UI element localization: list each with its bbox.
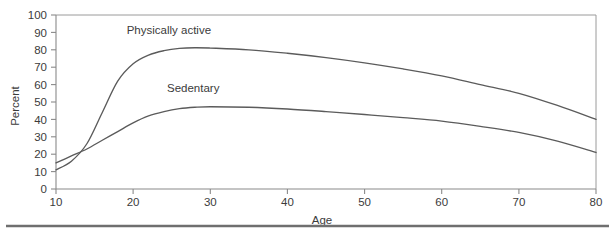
y-tick-label-50: 50 <box>34 96 47 108</box>
y-axis-title: Percent <box>9 85 21 125</box>
x-tick-label-20: 20 <box>127 196 140 208</box>
y-axis-tick-labels: 0 10 20 30 40 50 60 70 80 90 100 <box>28 9 47 195</box>
y-tick-label-100: 100 <box>28 9 47 21</box>
x-tick-label-60: 60 <box>435 196 448 208</box>
y-tick-label-0: 0 <box>41 183 47 195</box>
x-tick-label-40: 40 <box>281 196 294 208</box>
y-tick-label-10: 10 <box>34 166 47 178</box>
figure-page: 0 10 20 30 40 50 60 70 80 90 100 10 20 <box>0 0 615 235</box>
x-axis-title: Age <box>312 214 332 226</box>
x-tick-label-30: 30 <box>204 196 217 208</box>
series-label-physically-active: Physically active <box>127 24 211 36</box>
line-chart: 0 10 20 30 40 50 60 70 80 90 100 10 20 <box>0 0 615 235</box>
y-tick-label-40: 40 <box>34 114 47 126</box>
x-tick-label-50: 50 <box>358 196 371 208</box>
series-line-sedentary <box>56 107 596 163</box>
x-axis-ticks <box>56 189 596 194</box>
plot-frame <box>56 15 596 189</box>
x-axis-tick-labels: 10 20 30 40 50 60 70 80 <box>50 196 603 208</box>
y-axis-ticks <box>51 15 56 189</box>
y-tick-label-80: 80 <box>34 44 47 56</box>
series-label-sedentary: Sedentary <box>167 82 220 94</box>
plot-axes <box>56 15 596 189</box>
series-line-physically-active <box>56 48 596 170</box>
x-tick-label-70: 70 <box>513 196 526 208</box>
y-tick-label-70: 70 <box>34 61 47 73</box>
y-tick-label-30: 30 <box>34 131 47 143</box>
y-tick-label-90: 90 <box>34 27 47 39</box>
y-tick-label-60: 60 <box>34 79 47 91</box>
y-tick-label-20: 20 <box>34 148 47 160</box>
x-tick-label-10: 10 <box>50 196 63 208</box>
x-tick-label-80: 80 <box>590 196 603 208</box>
